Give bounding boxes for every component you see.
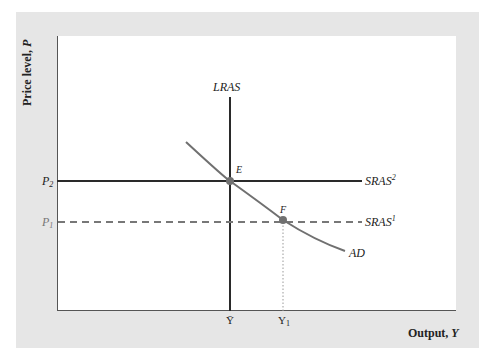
as-ad-diagram — [0, 0, 491, 360]
x-axis-label: Output, Y — [408, 326, 459, 341]
ad-label: AD — [349, 246, 365, 261]
y-axis-label: Price level, P — [20, 40, 35, 106]
p2-tick-label: P2 — [42, 174, 53, 189]
sras1-label: SRAS1 — [365, 214, 396, 230]
sras2-label: SRAS2 — [365, 173, 396, 189]
p1-tick-label: P1 — [42, 215, 53, 230]
point-e-marker — [226, 177, 234, 185]
point-e-label: E — [236, 164, 242, 175]
ad-curve — [186, 142, 345, 251]
ybar-tick-label: Ȳ — [226, 314, 234, 326]
point-f-marker — [279, 216, 287, 224]
y1-tick-label: Y1 — [278, 314, 290, 328]
lras-label: LRAS — [213, 80, 240, 95]
point-f-label: F — [280, 204, 286, 215]
